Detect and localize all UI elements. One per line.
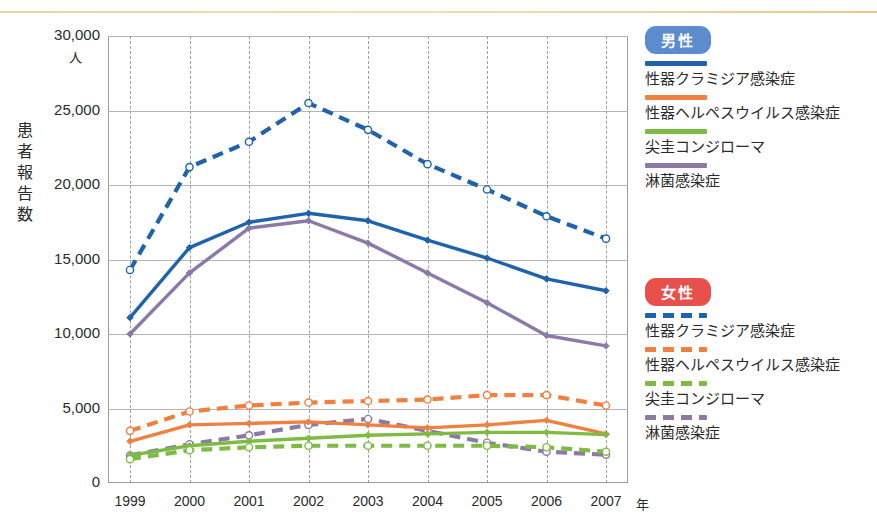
legend-female-items: 性器クラミジア感染症性器ヘルペスウイルス感染症尖圭コンジローマ淋菌感染症 <box>645 313 875 442</box>
data-point <box>305 435 311 441</box>
chart-canvas <box>108 36 628 483</box>
data-point <box>126 427 133 434</box>
y-axis-title: 患者報告数 <box>14 120 36 225</box>
data-point <box>483 186 490 193</box>
y-tick-5000: 5,000 <box>34 399 100 416</box>
data-point <box>424 442 431 449</box>
data-point <box>245 138 252 145</box>
x-tick-2004: 2004 <box>398 493 458 509</box>
data-point <box>602 448 609 455</box>
legend-item-label: 尖圭コンジローマ <box>645 390 765 407</box>
data-point <box>603 288 609 294</box>
data-point <box>186 408 193 415</box>
data-point <box>364 126 371 133</box>
legend-swatch-icon <box>645 313 707 318</box>
legend-item-male-3[interactable]: 淋菌感染症 <box>645 163 875 190</box>
data-point <box>245 444 252 451</box>
legend-item-male-2[interactable]: 尖圭コンジローマ <box>645 129 875 156</box>
x-tick-2006: 2006 <box>517 493 577 509</box>
legend-item-label: 淋菌感染症 <box>645 424 720 441</box>
x-tick-2007: 2007 <box>576 493 636 509</box>
legend-item-male-0[interactable]: 性器クラミジア感染症 <box>645 61 875 88</box>
sti-patient-report-line-chart: 患者報告数 人 05,00010,00015,00020,00025,00030… <box>0 0 877 528</box>
data-point <box>483 391 490 398</box>
data-point <box>364 397 371 404</box>
y-tick-15000: 15,000 <box>34 250 100 267</box>
legend-male-items: 性器クラミジア感染症性器ヘルペスウイルス感染症尖圭コンジローマ淋菌感染症 <box>645 61 875 190</box>
legend-swatch-icon <box>645 61 707 66</box>
y-tick-20000: 20,000 <box>34 175 100 192</box>
data-point <box>186 447 193 454</box>
plot-area <box>108 36 628 483</box>
x-tick-2002: 2002 <box>279 493 339 509</box>
x-axis-tick-labels: 199920002001200220032004200520062007 <box>108 493 668 515</box>
y-tick-0: 0 <box>34 473 100 490</box>
y-tick-10000: 10,000 <box>34 324 100 341</box>
data-point <box>424 396 431 403</box>
legend-item-label: 性器クラミジア感染症 <box>645 70 795 87</box>
x-axis-unit-label: 年 <box>636 494 649 513</box>
data-point <box>245 402 252 409</box>
data-point <box>543 429 549 435</box>
data-point <box>483 442 490 449</box>
data-point <box>484 422 490 428</box>
x-tick-1999: 1999 <box>100 493 160 509</box>
legend-item-female-1[interactable]: 性器ヘルペスウイルス感染症 <box>645 347 875 374</box>
legend-item-female-2[interactable]: 尖圭コンジローマ <box>645 381 875 408</box>
x-tick-2003: 2003 <box>338 493 398 509</box>
x-tick-2001: 2001 <box>219 493 279 509</box>
data-point <box>305 442 312 449</box>
data-point <box>603 343 609 349</box>
legend-swatch-icon <box>645 163 707 168</box>
series-3 <box>127 218 609 350</box>
legend-badge-female: 女性 <box>645 278 711 306</box>
data-point <box>126 266 133 273</box>
legend-item-male-1[interactable]: 性器ヘルペスウイルス感染症 <box>645 95 875 122</box>
legend-item-label: 性器ヘルペスウイルス感染症 <box>645 104 840 121</box>
data-point <box>126 456 133 463</box>
legend-swatch-icon <box>645 95 707 100</box>
data-point <box>365 432 371 438</box>
data-point <box>305 99 312 106</box>
data-point <box>543 444 550 451</box>
data-point <box>305 399 312 406</box>
legend-swatch-icon <box>645 381 707 386</box>
y-tick-30000: 30,000 <box>34 26 100 43</box>
legend-swatch-icon <box>645 129 707 134</box>
x-tick-2005: 2005 <box>457 493 517 509</box>
legend-swatch-icon <box>645 415 707 420</box>
legend-item-female-3[interactable]: 淋菌感染症 <box>645 415 875 442</box>
legend-item-label: 淋菌感染症 <box>645 172 720 189</box>
legend-badge-male: 男性 <box>645 26 711 54</box>
legend-female: 女性 性器クラミジア感染症性器ヘルペスウイルス感染症尖圭コンジローマ淋菌感染症 <box>645 278 875 442</box>
legend-item-label: 尖圭コンジローマ <box>645 138 765 155</box>
data-point <box>186 164 193 171</box>
data-point <box>305 210 311 216</box>
data-point <box>365 422 371 428</box>
x-tick-2000: 2000 <box>160 493 220 509</box>
data-point <box>602 402 609 409</box>
data-point <box>246 420 252 426</box>
legend-male: 男性 性器クラミジア感染症性器ヘルペスウイルス感染症尖圭コンジローマ淋菌感染症 <box>645 26 875 190</box>
data-point <box>543 213 550 220</box>
legend-swatch-icon <box>645 347 707 352</box>
data-point <box>543 391 550 398</box>
data-point <box>424 161 431 168</box>
legend-item-label: 性器クラミジア感染症 <box>645 322 795 339</box>
y-axis-tick-labels: 05,00010,00015,00020,00025,00030,000 <box>34 36 104 483</box>
y-tick-25000: 25,000 <box>34 101 100 118</box>
data-point <box>602 235 609 242</box>
legend-item-female-0[interactable]: 性器クラミジア感染症 <box>645 313 875 340</box>
series-4 <box>126 99 609 273</box>
data-point <box>484 429 490 435</box>
legend-item-label: 性器ヘルペスウイルス感染症 <box>645 356 840 373</box>
data-point <box>364 442 371 449</box>
